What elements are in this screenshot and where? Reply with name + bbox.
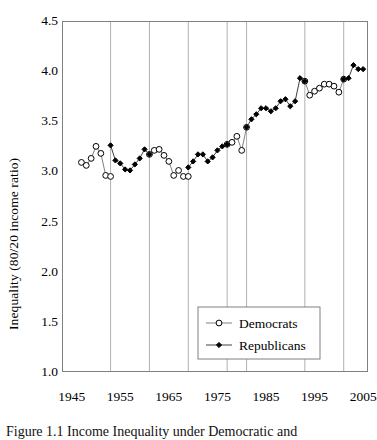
x-tick-label: 2005 (350, 390, 377, 404)
data-point-democrat (98, 150, 104, 156)
x-tick-label: 1975 (204, 390, 231, 404)
plot-area: DemocratsRepublicans (62, 21, 368, 372)
data-point-democrat (216, 320, 222, 326)
data-point-democrat (307, 92, 313, 98)
data-point-democrat (331, 83, 337, 89)
x-tick-label: 1985 (253, 390, 280, 404)
data-point-democrat (171, 173, 177, 179)
legend-label-democrats: Democrats (239, 316, 297, 331)
data-point-democrat (83, 163, 89, 169)
data-point-republican (263, 106, 268, 111)
x-tick-label: 1995 (301, 390, 328, 404)
figure-caption: Figure 1.1 Income Inequality under Democ… (6, 424, 375, 440)
x-tick-label: 1955 (107, 390, 134, 404)
data-point-republican (268, 109, 273, 114)
data-point-democrat (88, 155, 94, 161)
data-point-democrat (239, 147, 245, 153)
data-point-republican (108, 143, 113, 148)
data-point-democrat (166, 159, 172, 165)
data-point-republican (361, 67, 366, 72)
legend-label-republicans: Republicans (239, 338, 306, 353)
data-point-democrat (161, 152, 167, 158)
plot-svg: DemocratsRepublicans (62, 21, 368, 372)
data-point-democrat (317, 85, 323, 91)
data-point-democrat (176, 168, 182, 174)
x-tick-label: 1965 (155, 390, 182, 404)
data-point-democrat (185, 174, 191, 180)
data-point-democrat (108, 174, 114, 180)
series-line (81, 146, 110, 176)
data-point-democrat (156, 146, 162, 152)
series-republicans (108, 63, 366, 174)
data-point-democrat (336, 89, 342, 95)
data-point-democrat (234, 133, 240, 139)
x-tick-label: 1945 (58, 390, 85, 404)
data-point-republican (113, 158, 118, 163)
legend: DemocratsRepublicans (198, 307, 320, 359)
data-point-democrat (93, 143, 99, 149)
